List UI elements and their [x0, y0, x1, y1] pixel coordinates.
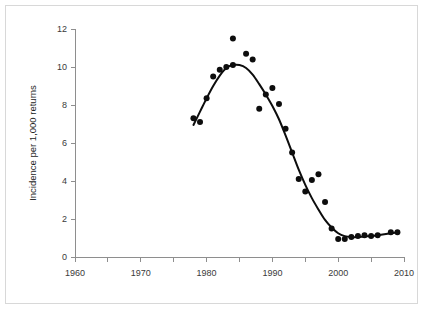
- x-axis-ticks: [75, 257, 404, 262]
- data-point: [302, 188, 308, 194]
- y-tick-label: 12: [57, 24, 67, 34]
- data-point: [355, 233, 361, 239]
- data-point: [289, 150, 295, 156]
- chart-figure: 024681012 196019701980199020002010 Incid…: [0, 0, 423, 309]
- data-points-group: [190, 36, 400, 242]
- figure-border: 024681012 196019701980199020002010 Incid…: [5, 5, 418, 304]
- data-point: [269, 85, 275, 91]
- x-tick-label: 1960: [65, 268, 85, 278]
- data-point: [217, 67, 223, 73]
- y-axis-ticks: [71, 29, 75, 257]
- data-point: [335, 236, 341, 242]
- data-point: [329, 226, 335, 232]
- data-point: [388, 229, 394, 235]
- data-point: [250, 56, 256, 62]
- data-point: [309, 177, 315, 183]
- y-tick-label: 2: [62, 214, 67, 224]
- data-point: [348, 234, 354, 240]
- y-tick-label: 6: [62, 138, 67, 148]
- x-tick-label: 2000: [328, 268, 348, 278]
- data-point: [283, 126, 289, 132]
- data-point: [197, 119, 203, 125]
- y-tick-label: 10: [57, 62, 67, 72]
- data-point: [263, 92, 269, 98]
- data-point: [204, 95, 210, 101]
- data-point: [230, 62, 236, 68]
- data-point: [256, 106, 262, 112]
- y-tick-label: 0: [62, 252, 67, 262]
- y-tick-label: 4: [62, 176, 67, 186]
- data-point: [243, 51, 249, 57]
- scatter-plot-canvas: 024681012 196019701980199020002010 Incid…: [6, 6, 417, 303]
- x-tick-label: 1970: [131, 268, 151, 278]
- y-axis-title: Incidence per 1,000 returns: [27, 85, 38, 201]
- data-point: [223, 64, 229, 70]
- data-point: [276, 101, 282, 107]
- data-point: [190, 115, 196, 121]
- data-point: [315, 171, 321, 177]
- data-point: [230, 36, 236, 42]
- data-point: [210, 74, 216, 80]
- x-axis-tick-labels: 196019701980199020002010: [65, 268, 414, 278]
- data-point: [375, 232, 381, 238]
- x-tick-label: 1990: [262, 268, 282, 278]
- fitted-trend-curve: [193, 65, 397, 237]
- data-point: [322, 199, 328, 205]
- y-tick-label: 8: [62, 100, 67, 110]
- y-axis-tick-labels: 024681012: [57, 24, 67, 262]
- x-tick-label: 1980: [197, 268, 217, 278]
- axes-group: 024681012 196019701980199020002010: [57, 24, 414, 278]
- data-point: [394, 229, 400, 235]
- data-point: [362, 232, 368, 238]
- data-point: [368, 233, 374, 239]
- data-point: [342, 236, 348, 242]
- data-point: [296, 176, 302, 182]
- x-tick-label: 2010: [394, 268, 414, 278]
